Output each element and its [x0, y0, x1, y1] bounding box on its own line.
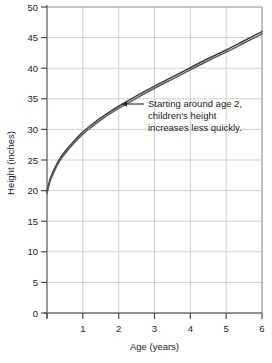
ytick-label-25: 25 — [27, 155, 38, 166]
callout-line-1: Starting around age 2, — [148, 98, 242, 109]
height-vs-age-line-chart: 50 45 40 35 30 25 20 15 10 5 0 1 2 3 4 5… — [0, 0, 272, 363]
xtick-label-3: 3 — [152, 323, 157, 334]
xtick-label-6: 6 — [259, 323, 264, 334]
xtick-label-1: 1 — [80, 323, 85, 334]
ytick-label-5: 5 — [33, 277, 38, 288]
figure-container: 50 45 40 35 30 25 20 15 10 5 0 1 2 3 4 5… — [0, 0, 272, 363]
callout-line-3: increases less quickly. — [148, 122, 242, 133]
ytick-label-0: 0 — [33, 308, 38, 319]
y-axis-title: Height (inches) — [5, 131, 16, 195]
ytick-label-10: 10 — [27, 246, 38, 257]
callout-line-2: children's height — [148, 110, 217, 121]
ytick-label-40: 40 — [27, 63, 38, 74]
xtick-label-4: 4 — [188, 323, 193, 334]
ytick-label-50: 50 — [27, 2, 38, 13]
ytick-label-15: 15 — [27, 216, 38, 227]
chart-background — [0, 0, 272, 363]
xtick-label-2: 2 — [116, 323, 121, 334]
ytick-label-20: 20 — [27, 185, 38, 196]
xtick-label-5: 5 — [224, 323, 229, 334]
ytick-label-30: 30 — [27, 124, 38, 135]
ytick-label-45: 45 — [27, 32, 38, 43]
x-axis-title: Age (years) — [130, 341, 179, 352]
ytick-label-35: 35 — [27, 93, 38, 104]
